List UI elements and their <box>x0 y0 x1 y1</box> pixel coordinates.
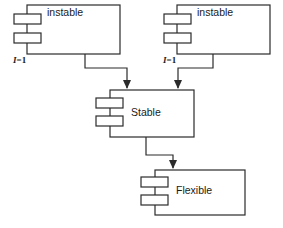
interface-label-value: =1 <box>167 55 177 65</box>
component-label: instable <box>197 6 233 18</box>
connector-path <box>178 54 213 88</box>
diagram-canvas: instable I=1 instable I=1 Stable <box>0 0 283 228</box>
connector-path <box>85 54 127 88</box>
interface-label: I=1 <box>162 55 177 65</box>
component-instable-left[interactable]: instable I=1 <box>12 5 120 65</box>
arrow-head-icon <box>123 80 131 89</box>
component-flexible[interactable]: Flexible <box>141 170 245 215</box>
connector-stable-to-flexible <box>146 137 177 169</box>
component-port-tab-upper-icon <box>14 14 41 24</box>
component-port-tab-lower-icon <box>96 116 123 126</box>
component-port-tab-lower-icon <box>14 33 41 43</box>
component-diagram: instable I=1 instable I=1 Stable <box>0 0 283 228</box>
component-port-tab-upper-icon <box>164 14 191 24</box>
connector-path <box>146 137 173 168</box>
connector-left-instable-to-stable <box>85 54 131 89</box>
component-label: Stable <box>131 106 161 118</box>
component-port-tab-upper-icon <box>141 177 168 187</box>
interface-label: I=1 <box>12 55 27 65</box>
component-port-tab-lower-icon <box>141 195 168 205</box>
component-port-tab-upper-icon <box>96 98 123 108</box>
component-label: Flexible <box>176 184 212 196</box>
component-label: instable <box>47 6 83 18</box>
component-port-tab-lower-icon <box>164 33 191 43</box>
arrow-head-icon <box>174 80 182 89</box>
component-stable[interactable]: Stable <box>96 90 194 137</box>
arrow-head-icon <box>169 160 177 169</box>
connector-right-instable-to-stable <box>174 54 213 89</box>
component-instable-right[interactable]: instable I=1 <box>162 5 270 65</box>
interface-label-value: =1 <box>17 55 27 65</box>
